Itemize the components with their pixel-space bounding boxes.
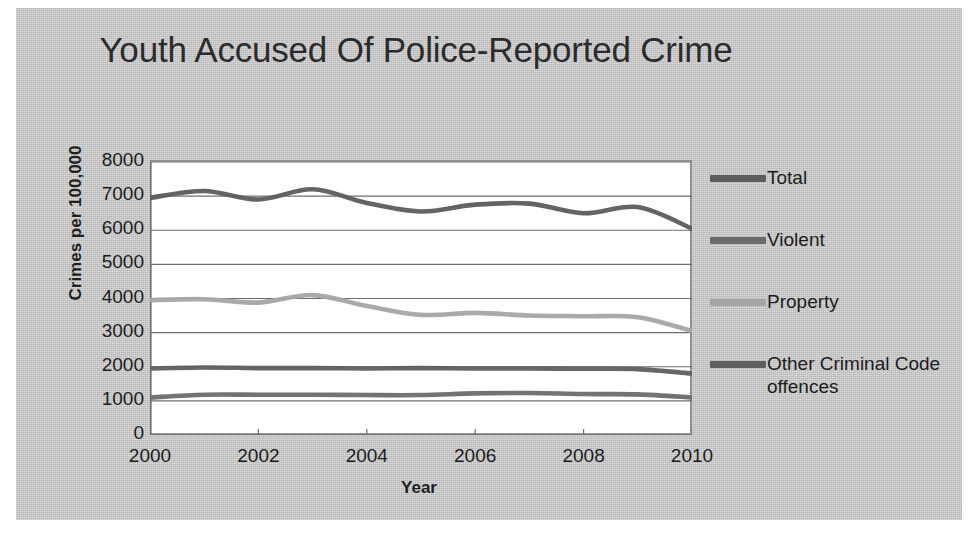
legend-label: Violent (767, 228, 825, 251)
legend-item[interactable]: Other Criminal Code offences (710, 352, 953, 398)
series-line-total (150, 189, 692, 228)
x-tick-label: 2010 (647, 445, 737, 467)
x-tick-label: 2008 (539, 445, 629, 467)
plot-canvas (150, 162, 692, 435)
series-line-property (150, 295, 692, 331)
y-tick-label: 0 (66, 422, 144, 444)
y-tick-label: 1000 (66, 388, 144, 410)
x-tick-label: 2004 (322, 445, 412, 467)
legend-item[interactable]: Total (710, 166, 807, 189)
legend-label: Total (767, 166, 807, 189)
y-tick-label: 5000 (66, 251, 144, 273)
legend-line-swatch (710, 361, 766, 368)
scanned-page: Youth Accused Of Police-Reported Crime C… (0, 0, 978, 536)
y-tick-label: 4000 (66, 286, 144, 308)
legend-label: Other Criminal Code offences (767, 352, 953, 398)
legend-line-swatch (710, 237, 766, 244)
y-tick-label: 7000 (66, 183, 144, 205)
x-axis-title: Year (146, 478, 692, 498)
x-tick-label: 2000 (105, 445, 195, 467)
y-axis-tick-labels: 010002000300040005000600070008000 (56, 8, 144, 520)
y-tick-label: 8000 (66, 149, 144, 171)
legend-label: Property (767, 290, 839, 313)
legend-line-swatch (710, 175, 766, 182)
x-tick-label: 2006 (430, 445, 520, 467)
series-line-other-criminal-code-offences (150, 367, 692, 373)
legend-item[interactable]: Violent (710, 228, 825, 251)
series-line-violent (150, 393, 692, 397)
y-tick-label: 6000 (66, 217, 144, 239)
legend-item[interactable]: Property (710, 290, 839, 313)
y-tick-label: 2000 (66, 354, 144, 376)
legend-line-swatch (710, 299, 766, 306)
plot-area (150, 160, 692, 433)
x-tick-label: 2002 (213, 445, 303, 467)
chart-figure: Youth Accused Of Police-Reported Crime C… (16, 8, 962, 520)
y-tick-label: 3000 (66, 320, 144, 342)
